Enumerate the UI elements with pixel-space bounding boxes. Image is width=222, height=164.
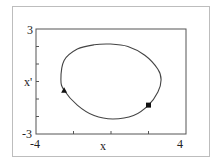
y-axis-label: x' [24, 76, 32, 88]
x-min-label: -4 [30, 138, 40, 150]
square-marker [146, 103, 151, 108]
y-max-label: 3 [27, 24, 33, 36]
orbit-curve [61, 44, 161, 119]
axis-ticks [36, 47, 149, 135]
plot-box [36, 29, 186, 134]
x-axis-label: x [100, 140, 106, 152]
x-max-label: 4 [177, 138, 183, 150]
triangle-marker [61, 87, 67, 93]
